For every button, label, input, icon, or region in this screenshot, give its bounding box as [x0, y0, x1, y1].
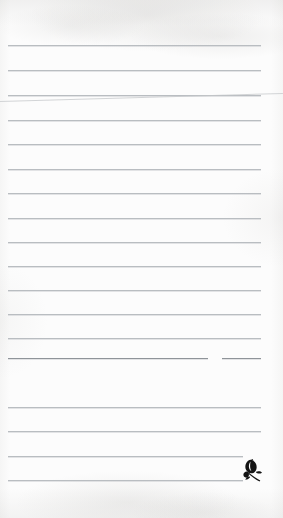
leaf-sprig-icon — [241, 459, 263, 482]
ruled-line — [8, 169, 261, 170]
ruled-line — [8, 70, 261, 71]
ruled-line — [8, 290, 261, 291]
ruled-line — [8, 218, 261, 219]
ruled-line — [8, 120, 261, 121]
ruled-line — [8, 45, 261, 46]
paper-surface — [0, 0, 283, 518]
notepaper-sheet — [0, 0, 283, 518]
ruled-line — [222, 358, 261, 359]
ruled-line — [8, 480, 243, 481]
ruled-line — [8, 456, 243, 457]
ruled-line — [8, 431, 261, 432]
ruled-line — [8, 193, 261, 194]
ruled-line — [8, 407, 261, 408]
ruled-line — [8, 242, 261, 243]
ruled-line — [8, 266, 261, 267]
ruled-line — [8, 144, 261, 145]
ruled-line — [8, 314, 261, 315]
ruled-line — [8, 338, 261, 339]
ruled-line — [8, 358, 208, 359]
